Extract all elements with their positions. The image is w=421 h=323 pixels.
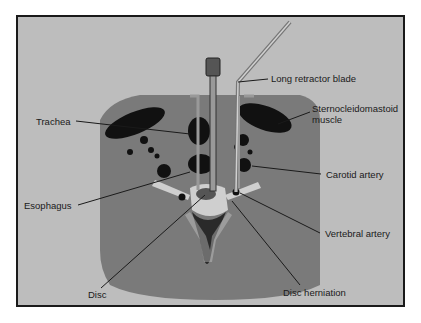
label-sternocleidomastoid-line2: muscle [312,114,398,125]
label-sternocleidomastoid: Sternocleidomastoid muscle [312,103,398,125]
label-trachea: Trachea [36,116,71,127]
label-esophagus: Esophagus [24,200,72,211]
neck-cross-section-illustration [0,0,421,323]
label-sternocleidomastoid-line1: Sternocleidomastoid [312,103,398,114]
label-carotid-artery: Carotid artery [326,169,384,180]
drill-handle [206,58,220,76]
label-disc-herniation: Disc herniation [283,287,346,298]
label-vertebral-artery: Vertebral artery [325,228,390,239]
label-long-retractor-blade: Long retractor blade [271,73,356,84]
label-disc: Disc [88,289,106,300]
left-carotid-artery [157,164,171,178]
left-vertebral-artery [179,194,186,201]
